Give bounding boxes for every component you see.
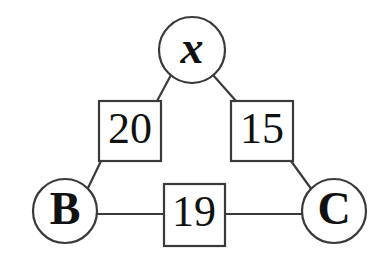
edge-weight-15-to-c [291, 161, 312, 190]
weight-node-19: 19 [164, 184, 225, 246]
weighted-graph-diagram: 20 15 19 x B C [0, 0, 373, 271]
vertex-node-b: B [33, 179, 97, 243]
diagram-canvas: 20 15 19 x B C [0, 0, 373, 271]
weight-box-19-label: 19 [172, 187, 216, 236]
weight-box-20-label: 20 [108, 104, 152, 153]
edge-x-to-weight-15 [213, 75, 236, 101]
vertex-c-label: C [317, 183, 350, 234]
edge-weight-20-to-b [87, 161, 101, 190]
vertex-node-x: x [159, 17, 225, 83]
weight-box-15-label: 15 [240, 104, 284, 153]
weight-node-15: 15 [231, 101, 293, 161]
edge-x-to-weight-20 [157, 75, 171, 101]
vertex-b-label: B [50, 183, 81, 234]
weight-node-20: 20 [99, 101, 161, 161]
vertex-x-label: x [180, 22, 204, 73]
vertex-node-c: C [302, 179, 366, 243]
